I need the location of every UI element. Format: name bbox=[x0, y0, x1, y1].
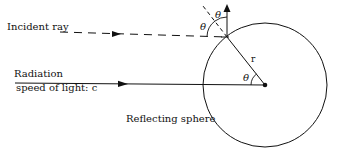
speed-of-light-label: speed of light: c bbox=[16, 83, 97, 93]
theta-label-reflected: θ bbox=[215, 10, 221, 20]
incident-ray-arrow-icon bbox=[112, 31, 121, 37]
theta-label-incident: θ bbox=[200, 22, 206, 32]
radiation-label: Radiation bbox=[14, 69, 63, 79]
theta-label-center: θ bbox=[243, 73, 249, 83]
angle-arc-incident bbox=[207, 21, 215, 37]
radiation-ray-arrow-icon bbox=[118, 81, 128, 87]
angle-arc-center bbox=[251, 74, 257, 85]
reflected-ray-arrow-icon bbox=[224, 4, 231, 12]
incident-ray-line bbox=[60, 32, 227, 37]
radius-label: r bbox=[251, 55, 255, 64]
incident-ray-label: Incident ray bbox=[7, 22, 69, 32]
reflecting-sphere-label: Reflecting sphere bbox=[126, 114, 215, 124]
